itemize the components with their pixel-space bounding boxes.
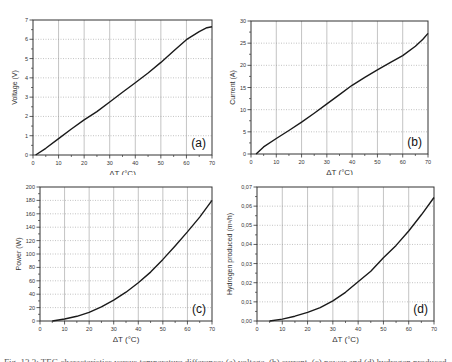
plot-frame bbox=[257, 187, 434, 321]
x-tick-label: 10 bbox=[279, 326, 285, 332]
x-tick-label: 60 bbox=[406, 326, 412, 332]
x-tick-label: 30 bbox=[330, 326, 336, 332]
y-tick-label: 0,06 bbox=[241, 203, 252, 209]
y-axis-label: Hydrogen produced (m³/h) bbox=[226, 213, 234, 295]
chart-svg: 0102030405060700,000,010,020,030,040,050… bbox=[0, 0, 452, 352]
chart-panel-d: 0102030405060700,000,010,020,030,040,050… bbox=[0, 0, 452, 352]
y-tick-label: 0,04 bbox=[241, 241, 252, 247]
y-tick-label: 0,02 bbox=[241, 280, 252, 286]
x-tick-label: 0 bbox=[255, 326, 258, 332]
y-tick-label: 0,00 bbox=[241, 318, 252, 324]
y-tick-label: 0,03 bbox=[241, 261, 252, 267]
x-tick-label: 50 bbox=[380, 326, 386, 332]
y-tick-label: 0,07 bbox=[241, 184, 252, 190]
data-series-line bbox=[270, 198, 434, 322]
x-tick-label: 20 bbox=[305, 326, 311, 332]
grid-lines bbox=[257, 187, 434, 321]
panel-label: (d) bbox=[413, 302, 428, 316]
x-tick-label: 40 bbox=[355, 326, 361, 332]
y-tick-label: 0,01 bbox=[241, 299, 252, 305]
x-axis-label: ΔT (°C) bbox=[332, 335, 359, 344]
y-tick-label: 0,05 bbox=[241, 222, 252, 228]
x-tick-label: 70 bbox=[431, 326, 437, 332]
figure-caption: Fig. 13.3: TEG characteristics versus te… bbox=[4, 354, 450, 362]
